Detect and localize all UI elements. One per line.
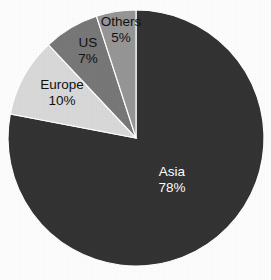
pie-label-others: Others xyxy=(101,14,142,29)
pie-label-europe: Europe xyxy=(40,77,84,92)
pie-label-us: US xyxy=(79,35,98,50)
pie-value-asia: 78% xyxy=(158,180,185,195)
pie-value-us: 7% xyxy=(78,51,98,66)
pie-slices-group xyxy=(8,10,264,266)
pie-value-europe: 10% xyxy=(48,93,75,108)
pie-chart-figure: Asia78%Europe10%US7%Others5% xyxy=(0,0,271,280)
pie-label-asia: Asia xyxy=(159,164,186,179)
pie-value-others: 5% xyxy=(111,30,131,45)
pie-chart-svg: Asia78%Europe10%US7%Others5% xyxy=(0,0,271,280)
